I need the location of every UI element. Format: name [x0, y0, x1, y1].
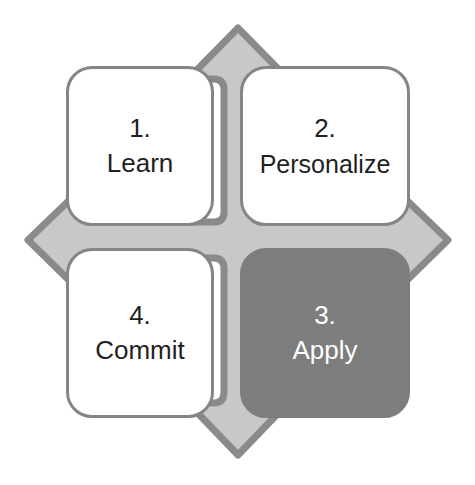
- four-step-cycle-diagram: 1. Learn 2. Personalize 3. Apply 4. Comm…: [0, 0, 475, 485]
- quadrant-commit-step: 4.: [129, 299, 151, 332]
- quadrant-commit-label: Commit: [95, 334, 185, 367]
- quadrant-apply-label: Apply: [292, 334, 357, 367]
- quadrant-personalize-step: 2.: [314, 112, 336, 145]
- quadrant-commit[interactable]: 4. Commit: [66, 248, 214, 418]
- quadrant-apply-step: 3.: [314, 299, 336, 332]
- quadrant-learn-step: 1.: [129, 112, 151, 145]
- quadrant-learn[interactable]: 1. Learn: [66, 66, 214, 226]
- quadrant-personalize-label: Personalize: [260, 148, 391, 180]
- quadrant-apply[interactable]: 3. Apply: [240, 248, 410, 418]
- quadrant-learn-label: Learn: [107, 147, 174, 180]
- quadrant-personalize[interactable]: 2. Personalize: [240, 66, 410, 226]
- four-directional-arrow-background: [0, 0, 475, 485]
